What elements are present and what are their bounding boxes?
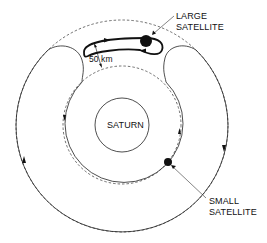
small-satellite-label-line2: SATELLITE [209,207,257,217]
right-turn-lobe [164,46,196,82]
separation-label: 50 km [89,54,113,64]
large-satellite-label-line2: SATELLITE [176,22,224,32]
large-satellite-label-line1: LARGE [176,11,207,21]
small-satellite [164,158,172,166]
small-satellite-leader [172,166,206,198]
small-satellite-label-line1: SMALL [209,196,239,206]
horseshoe-path-inner [65,82,183,182]
left-turn-lobe [48,46,83,82]
large-satellite [140,35,152,47]
large-satellite-leader [153,16,174,34]
horseshoe-path-outer [16,50,228,232]
saturn-label: SATURN [107,120,144,130]
arrow-outer-left [22,156,26,163]
loop-arrow-top [104,38,110,43]
